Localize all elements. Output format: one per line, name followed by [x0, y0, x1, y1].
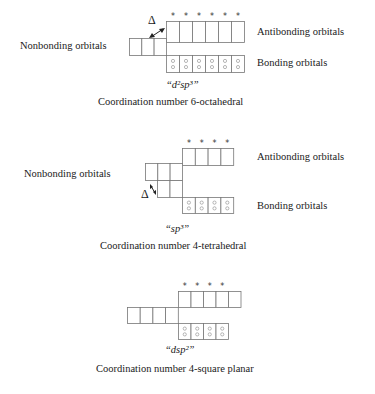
- bonding-octahedral-box: [180, 56, 193, 73]
- antibonding-square-planar-box: [229, 292, 242, 308]
- antibonding-star: *: [197, 12, 201, 21]
- antibonding-tetrahedral-box: [183, 149, 196, 166]
- antibonding-star: *: [213, 139, 217, 148]
- antibonding-star: *: [200, 139, 204, 148]
- bonding-tetrahedral-box: [208, 198, 221, 214]
- bonding-tetrahedral-box: [183, 198, 196, 214]
- bonding-octahedral-box: [206, 56, 219, 73]
- nonbonding-octahedral-box: [142, 39, 154, 56]
- bonding-octahedral-box: [193, 56, 206, 73]
- antibonding-star: *: [184, 12, 188, 21]
- antibonding-star: *: [171, 12, 175, 21]
- antibonding-star: *: [225, 139, 229, 148]
- antibonding-star: *: [210, 12, 214, 21]
- bonding-square-planar-box: [191, 324, 204, 340]
- bonding-square-planar-box: [179, 324, 192, 340]
- orbital-diagrams: **************: [0, 0, 375, 394]
- nonbonding-tetrahedral-box: [158, 164, 170, 181]
- nonbonding-octahedral-box: [154, 39, 166, 56]
- antibonding-octahedral-box: [167, 22, 180, 43]
- bonding-octahedral-box: [232, 56, 245, 73]
- nonbonding-tetrahedral-box: [170, 181, 183, 198]
- antibonding-square-planar-box: [179, 292, 192, 308]
- bonding-octahedral-box: [167, 56, 180, 73]
- nonbonding-tetrahedral-box: [146, 164, 158, 181]
- nonbonding-square-planar-box: [140, 308, 153, 324]
- antibonding-octahedral-box: [232, 22, 245, 43]
- nonbonding-square-planar-box: [166, 308, 179, 324]
- antibonding-octahedral-box: [219, 22, 232, 43]
- antibonding-octahedral-box: [206, 22, 219, 43]
- bonding-tetrahedral-box: [195, 198, 208, 214]
- antibonding-square-planar-box: [191, 292, 204, 308]
- antibonding-square-planar-box: [216, 292, 229, 308]
- antibonding-star: *: [208, 282, 212, 291]
- nonbonding-square-planar-box: [153, 308, 166, 324]
- antibonding-octahedral-box: [193, 22, 206, 43]
- nonbonding-tetrahedral-box: [170, 164, 182, 181]
- antibonding-star: *: [223, 12, 227, 21]
- bonding-tetrahedral-box: [221, 198, 234, 214]
- nonbonding-square-planar-box: [128, 308, 141, 324]
- nonbonding-tetrahedral-box: [158, 181, 171, 198]
- antibonding-octahedral-box: [180, 22, 193, 43]
- bonding-square-planar-box: [204, 324, 217, 340]
- antibonding-star: *: [187, 139, 191, 148]
- antibonding-square-planar-box: [204, 292, 217, 308]
- antibonding-star: *: [195, 282, 199, 291]
- antibonding-star: *: [236, 12, 240, 21]
- antibonding-tetrahedral-box: [221, 149, 234, 166]
- nonbonding-octahedral-box: [130, 39, 142, 56]
- antibonding-star: *: [220, 282, 224, 291]
- antibonding-tetrahedral-box: [195, 149, 208, 166]
- bonding-square-planar-box: [216, 324, 229, 340]
- antibonding-tetrahedral-box: [208, 149, 221, 166]
- antibonding-star: *: [183, 282, 187, 291]
- bonding-octahedral-box: [219, 56, 232, 73]
